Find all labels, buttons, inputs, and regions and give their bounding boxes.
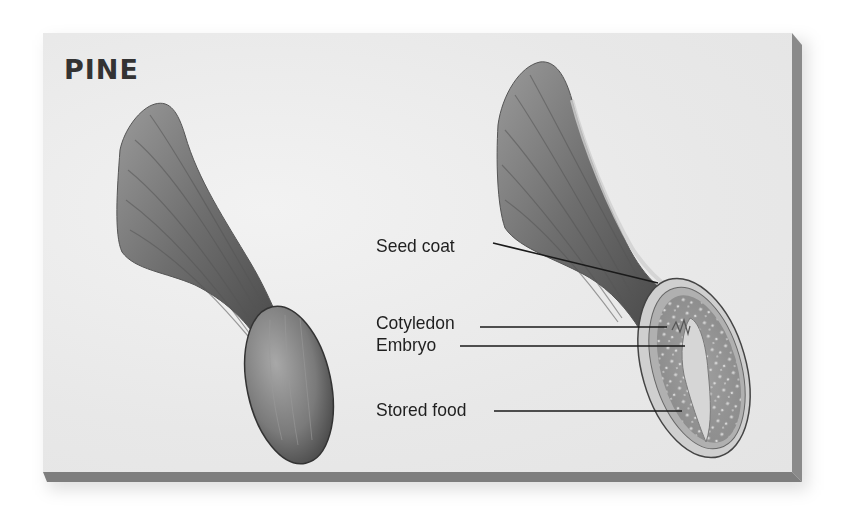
- right-seed-wing: [497, 62, 660, 330]
- label-seed-coat: Seed coat: [376, 236, 455, 255]
- label-stored-food: Stored food: [376, 400, 466, 419]
- left-seed-wing: [117, 103, 278, 340]
- label-embryo: Embryo: [376, 335, 436, 354]
- whole-seed-figure: [117, 103, 347, 472]
- label-cotyledon: Cotyledon: [376, 313, 455, 332]
- seed-illustrations: [0, 0, 849, 515]
- cross-section-seed-figure: [497, 62, 769, 471]
